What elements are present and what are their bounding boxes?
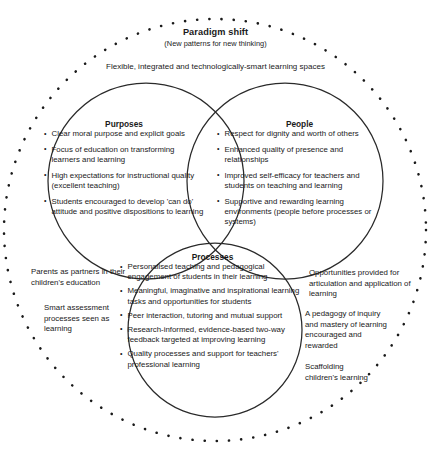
- list-item: Students encouraged to develop 'can do' …: [44, 197, 204, 218]
- list-item: Quality processes and support for teache…: [120, 349, 305, 370]
- list-item: Peer interaction, tutoring and mutual su…: [120, 311, 305, 321]
- people-content: People Respect for dignity and worth of …: [217, 119, 382, 228]
- list-item: Improved self-efficacy for teachers and …: [217, 171, 382, 192]
- list-item: Enhanced quality of presence and relatio…: [217, 145, 382, 166]
- processes-content: Processes Personalised teaching and peda…: [120, 252, 305, 374]
- annotation-parents: Parents as partners in their children's …: [31, 267, 129, 288]
- purposes-list: Clear moral purpose and explicit goals F…: [44, 129, 204, 217]
- paradigm-shift-subtitle: (New patterns for new thinking): [0, 39, 431, 48]
- list-item: Respect for dignity and worth of others: [217, 129, 382, 139]
- list-item: Clear moral purpose and explicit goals: [44, 129, 204, 139]
- list-item: Meaningful, imaginative and inspirationa…: [120, 286, 305, 307]
- processes-list: Personalised teaching and pedagogical en…: [120, 262, 305, 370]
- annotation-opportunities: Opportunities provided for articulation …: [309, 268, 425, 300]
- people-heading: People: [217, 119, 382, 129]
- list-item: Research-informed, evidence-based two-wa…: [120, 325, 305, 346]
- learning-spaces-band: Flexible, integrated and technologically…: [0, 62, 431, 71]
- annotation-pedagogy: A pedagogy of inquiry and mastery of lea…: [305, 309, 390, 351]
- annotation-assessment: Smart assessment processes seen as learn…: [44, 303, 138, 335]
- processes-heading: Processes: [120, 252, 305, 262]
- list-item: Personalised teaching and pedagogical en…: [120, 262, 305, 283]
- purposes-heading: Purposes: [44, 119, 204, 129]
- paradigm-shift-title: Paradigm shift: [0, 27, 431, 37]
- annotation-scaffolding: Scaffolding children's learning: [305, 362, 375, 383]
- purposes-content: Purposes Clear moral purpose and explici…: [44, 119, 204, 217]
- people-list: Respect for dignity and worth of others …: [217, 129, 382, 228]
- list-item: High expectations for instructional qual…: [44, 171, 204, 192]
- diagram-canvas: Paradigm shift (New patterns for new thi…: [0, 0, 431, 451]
- list-item: Supportive and rewarding learning enviro…: [217, 197, 382, 228]
- list-item: Focus of education on transforming learn…: [44, 145, 204, 166]
